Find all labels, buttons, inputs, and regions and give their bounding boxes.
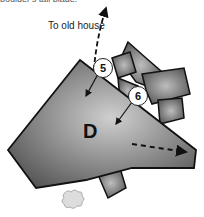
direction-label: To old house bbox=[48, 20, 105, 31]
map-diagram bbox=[0, 0, 204, 217]
area-label-d: D bbox=[83, 120, 97, 143]
cloud-shape bbox=[62, 190, 84, 208]
marker-5: 5 bbox=[93, 58, 113, 78]
marker-6: 6 bbox=[128, 86, 148, 106]
